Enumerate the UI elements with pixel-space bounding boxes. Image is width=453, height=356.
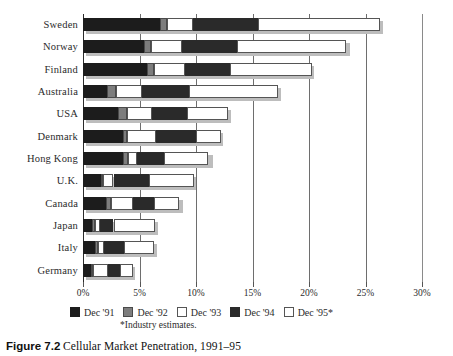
x-tick [422,282,423,287]
bar-segment-d92 [95,241,97,254]
bar-segment-d93 [95,219,100,232]
legend-label: Dec '92 [137,307,167,318]
x-tick [366,282,367,287]
bar-segment-d92 [123,152,129,165]
figure-number: Figure 7.2 [6,340,60,352]
legend-swatch-d95 [284,307,294,317]
bar-segment-d95 [237,40,347,53]
bar-segment-d91 [83,197,106,210]
category-label-hong-kong: Hong Kong [0,152,78,165]
legend-label: Dec '93 [191,307,221,318]
bar-segment-d94 [104,241,123,254]
bar-segment-d94 [193,18,259,31]
gridline-30 [422,14,423,282]
bar-segment-d95 [124,241,155,254]
bar-segment-d95 [196,130,221,143]
x-tick-label-0: 0% [77,288,90,298]
legend-item: Dec '94 [230,307,274,318]
bar-segment-d95 [114,219,156,232]
bar-segment-d92 [118,107,127,120]
category-label-canada: Canada [0,197,78,210]
x-tick-label-20: 20% [300,288,317,298]
bar-segment-d95 [120,264,132,277]
x-tick [140,282,141,287]
bar-segment-d94 [156,130,196,143]
bar-segment-d91 [83,219,92,232]
legend-swatch-d91 [70,307,80,317]
legend-item: Dec '95* [284,307,333,318]
legend-swatch-d93 [177,307,187,317]
bar-segment-d91 [83,107,118,120]
bar-segment-d94 [108,264,120,277]
chart-plot-area [83,14,422,282]
bar-segment-d91 [83,174,101,187]
bar-row [83,85,422,98]
category-label-sweden: Sweden [0,18,78,31]
legend-item: Dec '92 [123,307,167,318]
bar-segment-d92 [91,264,93,277]
bar-segment-d92 [107,85,116,98]
bar-segment-d93 [111,197,132,210]
figure-caption-text: Cellular Market Penetration, 1991–95 [63,340,241,352]
category-label-finland: Finland [0,63,78,76]
bar-segment-d91 [83,40,144,53]
bar-segment-d94 [137,152,164,165]
bar-segment-d95 [189,85,278,98]
bar-segment-d93 [103,174,113,187]
bar-row [83,264,422,277]
x-tick-label-5: 5% [133,288,146,298]
bar-segment-d93 [98,241,105,254]
bar-segment-d91 [83,18,160,31]
bar-segment-d93 [167,18,193,31]
bar-segment-d91 [83,241,95,254]
bar-segment-d92 [101,174,103,187]
legend-label: Dec '91 [84,307,114,318]
bar-segment-d95 [149,174,194,187]
bar-row [83,18,422,31]
legend-swatch-d92 [123,307,133,317]
bar-segment-d92 [147,63,154,76]
bar-segment-d91 [83,130,123,143]
figure-caption: Figure 7.2 Cellular Market Penetration, … [6,340,447,352]
x-tick-label-30: 30% [413,288,430,298]
bar-segment-d94 [152,107,187,120]
bar-row [83,152,422,165]
category-label-italy: Italy [0,241,78,254]
bar-row [83,63,422,76]
x-tick [83,282,84,287]
bar-segment-d95 [230,63,312,76]
x-tick-label-15: 15% [244,288,261,298]
category-label-germany: Germany [0,264,78,277]
bar-row [83,174,422,187]
figure-container: 0%5%10%15%20%25%30% Dec '91Dec '92Dec '9… [0,0,453,356]
bar-segment-d93 [116,85,142,98]
bar-segment-d92 [144,40,151,53]
bar-segment-d93 [151,40,183,53]
bar-segment-d92 [160,18,167,31]
bar-segment-d95 [187,107,228,120]
bar-row [83,107,422,120]
bar-row [83,219,422,232]
bar-row [83,241,422,254]
bar-segment-d94 [133,197,154,210]
x-tick [253,282,254,287]
footnote: *Industry estimates. [120,320,197,330]
bar-segment-d93 [127,107,152,120]
bar-segment-d94 [142,85,189,98]
category-label-norway: Norway [0,40,78,53]
bar-segment-d94 [114,174,149,187]
bar-segment-d92 [123,130,128,143]
bar-segment-d91 [83,264,91,277]
bar-segment-d93 [93,264,108,277]
bar-segment-d95 [164,152,208,165]
bar-segment-d94 [182,40,236,53]
bar-segment-d91 [83,85,107,98]
bar-row [83,130,422,143]
x-tick-label-10: 10% [187,288,204,298]
bar-segment-d93 [154,63,185,76]
bar-row [83,197,422,210]
x-tick [309,282,310,287]
bar-segment-d93 [127,130,156,143]
category-label-u-k-: U.K. [0,174,78,187]
category-label-japan: Japan [0,219,78,232]
